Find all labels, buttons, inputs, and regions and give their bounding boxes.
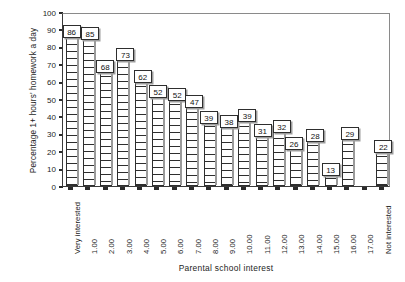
bar — [152, 96, 164, 186]
x-tick-mark — [327, 187, 332, 190]
x-tick-mark — [172, 187, 177, 190]
bar-value-label: 22 — [374, 140, 392, 153]
bar — [169, 96, 181, 186]
x-tick-mark — [103, 187, 108, 190]
bar-value-label: 31 — [254, 124, 272, 137]
x-tick-mark — [258, 187, 263, 190]
plot-area — [62, 13, 390, 187]
x-tick-mark — [206, 187, 211, 190]
x-tick-label: 9.00 — [229, 239, 237, 254]
y-tick-label: 80 — [22, 43, 56, 52]
bar-value-label: 52 — [168, 88, 186, 101]
bar-value-label: 52 — [149, 85, 167, 98]
x-tick-label: 5.00 — [160, 239, 168, 254]
bar — [221, 120, 233, 186]
x-tick-label: Not interested — [385, 205, 393, 254]
x-tick-mark — [154, 187, 159, 190]
x-tick-mark — [362, 187, 367, 190]
chart-figure: Percentage 1+ hours' homework a day 1009… — [0, 0, 405, 282]
bar-value-label: 32 — [273, 120, 291, 133]
x-tick-label: 6.00 — [177, 239, 185, 254]
x-tick-label: 3.00 — [126, 239, 134, 254]
bar — [204, 118, 216, 186]
bar-series — [63, 14, 389, 186]
y-tick-label: 60 — [22, 78, 56, 87]
x-tick-label: Very interested — [74, 202, 82, 254]
x-tick-mark — [85, 187, 90, 190]
x-tick-label: 17.00 — [367, 234, 375, 254]
bar — [256, 132, 268, 186]
x-tick-label: 2.00 — [108, 239, 116, 254]
x-tick-label: 4.00 — [143, 239, 151, 254]
bar-value-label: 39 — [200, 111, 218, 124]
bar-value-label: 29 — [341, 127, 359, 140]
y-axis-tick-labels: 1009080706050403020100 — [22, 9, 56, 187]
x-tick-mark — [310, 187, 315, 190]
x-axis-tick-labels: Very interested1.002.003.004.005.006.007… — [62, 194, 390, 256]
x-tick-mark — [344, 187, 349, 190]
x-tick-label: 16.00 — [350, 234, 358, 254]
x-tick-mark — [224, 187, 229, 190]
x-tick-label: 13.00 — [298, 234, 306, 254]
y-tick-label: 20 — [22, 148, 56, 157]
x-tick-mark — [293, 187, 298, 190]
y-tick-label: 0 — [22, 183, 56, 192]
x-tick-mark — [120, 187, 125, 190]
bar — [238, 118, 250, 186]
y-tick-label: 70 — [22, 61, 56, 70]
bar — [100, 68, 112, 186]
y-tick-label: 100 — [22, 9, 56, 18]
x-tick-label: 14.00 — [316, 234, 324, 254]
x-axis-title: Parental school interest — [62, 263, 390, 273]
bar-value-label: 38 — [220, 115, 238, 128]
x-tick-mark — [137, 187, 142, 190]
bar — [135, 78, 147, 186]
x-tick-label: 11.00 — [264, 235, 272, 254]
bar — [273, 130, 285, 186]
x-tick-label: 7.00 — [195, 239, 203, 254]
x-tick-label: 1.00 — [91, 239, 99, 254]
bar — [66, 36, 78, 186]
x-axis-tick-marks — [62, 187, 390, 193]
bar-value-label: 62 — [134, 70, 152, 83]
x-tick-mark — [379, 187, 384, 190]
bar-value-label: 47 — [185, 95, 203, 108]
bar-value-label: 85 — [81, 27, 99, 40]
x-tick-label: 12.00 — [281, 234, 289, 254]
bar — [83, 38, 95, 186]
y-tick-label: 50 — [22, 96, 56, 105]
y-tick-label: 10 — [22, 165, 56, 174]
bar — [186, 104, 198, 186]
bar-value-label: 28 — [306, 129, 324, 142]
y-tick-label: 40 — [22, 113, 56, 122]
bar-value-label: 39 — [238, 109, 256, 122]
x-tick-label: 10.00 — [246, 234, 254, 254]
bar-value-label: 26 — [285, 137, 303, 150]
x-tick-label: 8.00 — [212, 239, 220, 254]
x-tick-mark — [189, 187, 194, 190]
y-tick-label: 30 — [22, 130, 56, 139]
y-tick-label: 90 — [22, 26, 56, 35]
bar — [117, 59, 129, 186]
x-tick-label: 15.00 — [333, 234, 341, 254]
x-tick-mark — [275, 187, 280, 190]
x-tick-mark — [241, 187, 246, 190]
bar-value-label: 68 — [96, 60, 114, 73]
x-tick-mark — [68, 187, 73, 190]
bar — [307, 137, 319, 186]
bar-value-label: 86 — [63, 25, 81, 38]
bar — [342, 136, 354, 186]
bar-value-label: 13 — [322, 163, 340, 176]
bar-value-label: 73 — [116, 48, 134, 61]
